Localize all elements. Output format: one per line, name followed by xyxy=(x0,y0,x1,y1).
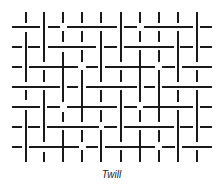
diagram-caption: Twill xyxy=(0,169,223,180)
twill-weave-diagram xyxy=(0,0,223,189)
